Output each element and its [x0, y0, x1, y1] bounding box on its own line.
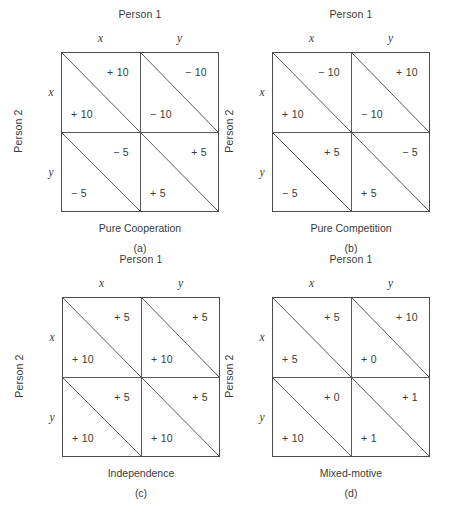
- column-header-person1: Person 1: [61, 8, 219, 20]
- payoff-person2: + 10: [71, 108, 93, 120]
- payoff-person2: + 5: [361, 187, 377, 199]
- column-labels: x y: [272, 277, 430, 289]
- column-label-x: x: [62, 277, 141, 289]
- diagonal-divider-icon: [141, 133, 218, 211]
- column-labels: x y: [61, 32, 219, 44]
- payoff-person1: + 5: [114, 391, 130, 403]
- payoff-person1: − 10: [185, 66, 207, 78]
- row-header-person2: Person 2: [223, 76, 235, 186]
- payoff-matrix: + 5 + 10 + 5 + 10 + 5 + 10 + 5 + 10: [62, 297, 220, 457]
- payoff-person1: − 5: [113, 146, 129, 158]
- panel-caption: Pure Competition: [272, 222, 430, 234]
- panel-c: Person 1 x y Person 2 x y + 5 + 10 + 5 +…: [1, 245, 220, 507]
- payoff-person1: + 5: [192, 311, 208, 323]
- column-labels: x y: [62, 277, 220, 289]
- row-label-x: x: [45, 297, 59, 377]
- panel-sublabel: (c): [62, 487, 220, 499]
- row-header-person2: Person 2: [13, 321, 25, 431]
- payoff-matrix: + 5 + 5 + 10 + 0 + 0 + 10 + 1 + 1: [272, 297, 430, 457]
- row-label-y: y: [45, 377, 59, 457]
- matrix-cell: + 5 + 5: [140, 132, 218, 211]
- panel-b: Person 1 x y Person 2 x y − 10 + 10 + 10…: [211, 0, 430, 262]
- diagonal-divider-icon: [62, 53, 140, 132]
- payoff-person1: + 5: [114, 311, 130, 323]
- diagonal-divider-icon: [273, 298, 351, 377]
- diagonal-divider-icon: [352, 378, 429, 456]
- matrix-cell: + 10 + 0: [351, 298, 429, 377]
- payoff-person2: + 1: [361, 432, 377, 444]
- row-header-person2: Person 2: [223, 321, 235, 431]
- row-labels: x y: [255, 297, 269, 457]
- diagonal-divider-icon: [142, 378, 219, 456]
- column-label-x: x: [272, 32, 351, 44]
- diagonal-divider-icon: [63, 378, 141, 456]
- row-label-y: y: [255, 377, 269, 457]
- column-label-x: x: [61, 32, 140, 44]
- payoff-person2: + 10: [282, 108, 304, 120]
- column-header-person1: Person 1: [272, 8, 430, 20]
- panel-d: Person 1 x y Person 2 x y + 5 + 5 + 10 +…: [211, 245, 430, 507]
- column-header-person1: Person 1: [272, 253, 430, 265]
- diagonal-divider-icon: [63, 298, 141, 377]
- row-labels: x y: [255, 52, 269, 212]
- payoff-person1: + 1: [402, 391, 418, 403]
- payoff-person1: + 5: [324, 146, 340, 158]
- payoff-person1: + 5: [191, 146, 207, 158]
- matrix-cell: + 5 − 5: [273, 132, 351, 211]
- payoff-person1: + 10: [396, 311, 418, 323]
- matrix-cell: + 5 + 10: [63, 298, 141, 377]
- payoff-matrix: + 10 + 10 − 10 − 10 − 5 − 5 + 5 + 5: [61, 52, 219, 212]
- row-labels: x y: [44, 52, 58, 212]
- matrix-cell: + 10 − 10: [351, 53, 429, 132]
- matrix-cell: − 5 − 5: [62, 132, 140, 211]
- panel-a: Person 1 x y Person 2 x y + 10 + 10 − 10…: [0, 0, 219, 262]
- payoff-person2: + 10: [151, 432, 173, 444]
- panel-sublabel: (d): [272, 487, 430, 499]
- diagonal-divider-icon: [352, 53, 429, 132]
- payoff-matrix: − 10 + 10 + 10 − 10 + 5 − 5 − 5 + 5: [272, 52, 430, 212]
- row-label-y: y: [44, 132, 58, 212]
- matrix-cell: + 1 + 1: [351, 377, 429, 456]
- payoff-person2: + 5: [282, 353, 298, 365]
- diagonal-divider-icon: [141, 53, 218, 132]
- diagonal-divider-icon: [62, 133, 140, 211]
- diagonal-divider-icon: [273, 378, 351, 456]
- payoff-person2: − 5: [282, 187, 298, 199]
- matrix-cell: + 5 + 10: [141, 298, 219, 377]
- column-label-y: y: [141, 277, 220, 289]
- payoff-matrix-figure: Person 1 x y Person 2 x y + 10 + 10 − 10…: [0, 0, 449, 525]
- payoff-person1: + 10: [396, 66, 418, 78]
- payoff-person1: + 10: [107, 66, 129, 78]
- payoff-person1: + 5: [324, 311, 340, 323]
- payoff-person2: + 0: [361, 353, 377, 365]
- column-label-x: x: [272, 277, 351, 289]
- diagonal-divider-icon: [142, 298, 219, 377]
- payoff-person1: − 10: [318, 66, 340, 78]
- panel-caption: Mixed-motive: [272, 467, 430, 479]
- payoff-person1: + 0: [324, 391, 340, 403]
- payoff-person2: + 10: [72, 432, 94, 444]
- payoff-person2: − 5: [71, 187, 87, 199]
- row-label-x: x: [255, 297, 269, 377]
- column-labels: x y: [272, 32, 430, 44]
- diagonal-divider-icon: [352, 133, 429, 211]
- diagonal-divider-icon: [273, 53, 351, 132]
- row-label-x: x: [44, 52, 58, 132]
- column-header-person1: Person 1: [62, 253, 220, 265]
- row-header-person2: Person 2: [12, 76, 24, 186]
- payoff-person2: + 10: [151, 353, 173, 365]
- diagonal-divider-icon: [273, 133, 351, 211]
- row-label-x: x: [255, 52, 269, 132]
- matrix-cell: − 5 + 5: [351, 132, 429, 211]
- diagonal-divider-icon: [352, 298, 429, 377]
- panel-caption: Independence: [62, 467, 220, 479]
- payoff-person1: − 5: [402, 146, 418, 158]
- matrix-cell: − 10 − 10: [140, 53, 218, 132]
- payoff-person2: + 10: [72, 353, 94, 365]
- payoff-person2: − 10: [150, 108, 172, 120]
- row-labels: x y: [45, 297, 59, 457]
- matrix-cell: + 10 + 10: [62, 53, 140, 132]
- column-label-y: y: [351, 277, 430, 289]
- column-label-y: y: [351, 32, 430, 44]
- column-label-y: y: [140, 32, 219, 44]
